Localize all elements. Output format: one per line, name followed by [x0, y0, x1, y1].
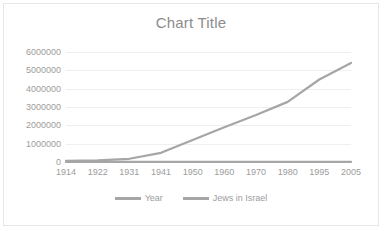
chart-title[interactable]: Chart Title — [4, 14, 378, 31]
legend-label: Jews in Israel — [213, 193, 268, 203]
y-axis-tick-label: 4000000 — [26, 84, 61, 94]
y-axis-tick-label: 1000000 — [26, 139, 61, 149]
y-axis: 6000000500000040000003000000200000010000… — [4, 52, 61, 162]
x-axis-tick-label: 1995 — [309, 167, 329, 177]
x-axis-tick-label: 1960 — [214, 167, 234, 177]
legend-item[interactable]: Year — [115, 193, 163, 203]
legend-label: Year — [145, 193, 163, 203]
series-line — [66, 63, 351, 161]
x-axis: 1914192219311941195019601970198019952005 — [66, 167, 351, 181]
y-axis-tick-label: 3000000 — [26, 102, 61, 112]
y-axis-tick-label: 0 — [56, 157, 61, 167]
chart-legend[interactable]: YearJews in Israel — [4, 193, 378, 203]
plot-area[interactable] — [66, 52, 351, 162]
y-axis-tick-label: 6000000 — [26, 47, 61, 57]
x-axis-tick-label: 2005 — [341, 167, 361, 177]
chart-container[interactable]: Chart Title 6000000500000040000003000000… — [3, 3, 379, 226]
legend-color-swatch — [183, 197, 209, 200]
x-axis-tick-label: 1931 — [119, 167, 139, 177]
y-axis-tick-label: 2000000 — [26, 120, 61, 130]
legend-item[interactable]: Jews in Israel — [183, 193, 268, 203]
x-axis-tick-label: 1914 — [56, 167, 76, 177]
legend-color-swatch — [115, 197, 141, 200]
x-axis-tick-label: 1922 — [88, 167, 108, 177]
x-axis-tick-label: 1970 — [246, 167, 266, 177]
y-axis-tick-label: 5000000 — [26, 65, 61, 75]
x-axis-tick-label: 1941 — [151, 167, 171, 177]
series-lines — [66, 52, 351, 162]
x-axis-tick-label: 1980 — [278, 167, 298, 177]
x-axis-tick-label: 1950 — [183, 167, 203, 177]
